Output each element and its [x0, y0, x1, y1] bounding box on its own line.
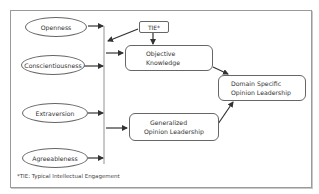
node-extraversion: Extraversion [22, 103, 88, 123]
node-agreeableness-label: Agreeableness [32, 155, 78, 162]
node-agreeableness: Agreeableness [22, 148, 88, 168]
node-objective-knowledge: Objective Knowledge [125, 45, 213, 71]
node-generalized-opinion-leadership: Generalized Opinion Leadership [129, 113, 219, 141]
node-objective-knowledge-line2: Knowledge [146, 58, 212, 67]
node-openness-label: Openness [41, 24, 72, 31]
node-domain-specific-line1: Domain Specific [231, 79, 305, 88]
node-conscientiousness-label: Conscientiousness [24, 62, 81, 69]
footnote: *TIE: Typical Intellectual Engagement [17, 173, 120, 179]
node-domain-specific-line2: Opinion Leadership [231, 88, 305, 97]
node-tie-label: TIE* [148, 24, 160, 31]
node-extraversion-label: Extraversion [36, 110, 75, 117]
node-conscientiousness: Conscientiousness [21, 55, 85, 75]
node-domain-specific-opinion-leadership: Domain Specific Opinion Leadership [218, 75, 306, 101]
node-openness: Openness [25, 17, 87, 37]
node-tie: TIE* [139, 21, 169, 33]
node-objective-knowledge-line1: Objective [146, 49, 212, 58]
node-generalized-line2: Opinion Leadership [144, 127, 218, 136]
node-generalized-line1: Generalized [144, 118, 218, 127]
